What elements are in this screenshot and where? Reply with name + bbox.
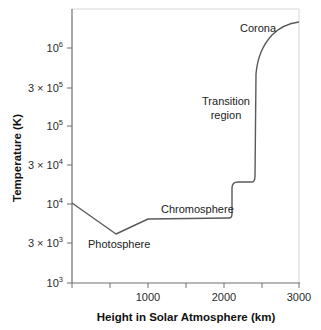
y-tick-labels: 106 3 × 105 105 3 × 104 104 3 × 103 103 (28, 40, 63, 289)
y-tick-3e4: 3 × 104 (28, 157, 63, 171)
x-tick-labels: 1000 2000 3000 (136, 291, 311, 303)
y-axis-title: Temperature (K) (11, 114, 23, 202)
annotation-photosphere: Photosphere (88, 238, 150, 250)
temperature-chart: 106 3 × 105 105 3 × 104 104 3 × 103 103 … (0, 0, 321, 330)
y-tick-1e3: 103 (47, 275, 63, 289)
y-ticks (67, 48, 72, 283)
annotation-chromosphere: Chromosphere (161, 203, 234, 215)
y-tick-1e6: 106 (47, 40, 63, 54)
annotation-transition-line2: region (211, 109, 242, 121)
y-tick-3e3: 3 × 103 (28, 235, 63, 249)
annotation-transition-line1: Transition (202, 95, 250, 107)
y-tick-3e5: 3 × 105 (28, 80, 63, 94)
x-tick-2000: 2000 (212, 291, 236, 303)
x-axis-title: Height in Solar Atmosphere (km) (97, 311, 276, 323)
x-ticks (72, 283, 299, 288)
y-tick-1e5: 105 (47, 118, 63, 132)
x-tick-1000: 1000 (136, 291, 160, 303)
annotation-corona: Corona (240, 22, 277, 34)
y-tick-1e4: 104 (47, 196, 63, 210)
x-tick-3000: 3000 (287, 291, 311, 303)
